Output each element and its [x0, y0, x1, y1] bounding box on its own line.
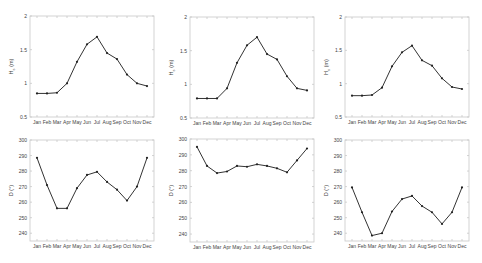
y-axis-label: Hs (m) [168, 59, 176, 75]
x-tick-label: Sep [273, 244, 282, 250]
data-point-marker [136, 186, 138, 188]
x-tick-label: May [387, 243, 397, 249]
y-axis-label: D (°) [323, 185, 329, 197]
data-point-marker [46, 92, 48, 94]
x-tick-label: Jan [348, 243, 356, 249]
x-tick-label: Jan [33, 119, 41, 125]
x-tick-label: Dec [303, 120, 312, 126]
x-tick-label: Mar [213, 244, 222, 250]
data-point-marker [56, 207, 58, 209]
data-point-marker [106, 181, 108, 183]
plot-area-frame [190, 17, 314, 118]
data-point-marker [371, 94, 373, 96]
data-point-marker [461, 88, 463, 90]
data-point-marker [136, 82, 138, 84]
data-point-marker [76, 187, 78, 189]
plot-area-frame [345, 17, 469, 117]
x-tick-label: Apr [63, 119, 71, 125]
data-point-marker [146, 85, 148, 87]
data-point-marker [146, 157, 148, 159]
x-tick-label: Aug [263, 244, 272, 250]
data-point-marker [126, 73, 128, 75]
y-tick-label: 0.5 [335, 114, 342, 120]
chart-direction-bottom-middle: 240250260270280290300JanFebMarAprMayJunJ… [160, 133, 320, 256]
data-point-marker [401, 51, 403, 53]
y-tick-label: 2 [24, 13, 27, 19]
chart-svg: 240250260270280290300JanFebMarAprMayJunJ… [0, 134, 160, 255]
data-point-marker [441, 223, 443, 225]
data-point-marker [306, 89, 308, 91]
x-tick-label: Apr [223, 120, 231, 126]
x-tick-label: Jul [94, 243, 100, 249]
x-tick-label: Feb [43, 119, 52, 125]
y-tick-label: 2 [339, 14, 342, 20]
x-tick-label: Feb [203, 120, 212, 126]
chart-direction-bottom-left: 240250260270280290300JanFebMarAprMayJunJ… [0, 134, 160, 255]
x-tick-label: Nov [133, 119, 142, 125]
data-point-marker [276, 167, 278, 169]
data-point-marker [361, 211, 363, 213]
x-tick-label: Mar [53, 119, 62, 125]
data-point-marker [86, 43, 88, 45]
chart-svg: 0.511.52JanFebMarAprMayJunJulAugSepOctNo… [160, 11, 320, 132]
plot-area-frame [30, 16, 154, 117]
x-tick-label: Oct [123, 119, 131, 125]
data-point-marker [381, 87, 383, 89]
x-tick-label: Oct [438, 119, 446, 125]
data-point-marker [246, 44, 248, 46]
data-point-marker [296, 159, 298, 161]
x-tick-label: Jun [83, 243, 91, 249]
x-tick-label: Mar [368, 243, 377, 249]
x-tick-label: Dec [303, 244, 312, 250]
y-axis-label: Hs (m) [8, 58, 16, 74]
x-tick-label: Sep [113, 119, 122, 125]
x-tick-label: May [232, 244, 242, 250]
x-tick-label: Feb [358, 119, 367, 125]
x-tick-label: Sep [113, 243, 122, 249]
x-tick-label: Mar [368, 119, 377, 125]
plot-area-frame [30, 140, 154, 241]
data-point-marker [411, 195, 413, 197]
data-series-line [37, 37, 147, 94]
data-point-marker [236, 62, 238, 64]
x-tick-label: Nov [293, 244, 302, 250]
data-point-marker [451, 211, 453, 213]
x-tick-label: Feb [358, 243, 367, 249]
x-tick-label: Dec [458, 119, 467, 125]
chart-direction-bottom-right: 240250260270280290300JanFebMarAprMayJunJ… [315, 134, 475, 255]
data-point-marker [236, 165, 238, 167]
x-tick-label: Oct [283, 244, 291, 250]
x-tick-label: Jan [193, 120, 201, 126]
x-tick-label: Jan [348, 119, 356, 125]
data-point-marker [46, 184, 48, 186]
chart-svg: 240250260270280290300JanFebMarAprMayJunJ… [160, 133, 320, 256]
x-tick-label: May [232, 120, 242, 126]
x-tick-label: Oct [438, 243, 446, 249]
y-tick-label: 1.5 [20, 47, 27, 53]
y-tick-label: 250 [334, 215, 343, 221]
data-point-marker [36, 92, 38, 94]
data-point-marker [391, 65, 393, 67]
x-tick-label: Nov [293, 120, 302, 126]
x-tick-label: Jul [409, 119, 415, 125]
y-tick-label: 250 [19, 215, 28, 221]
x-tick-label: Apr [223, 244, 231, 250]
data-point-marker [226, 170, 228, 172]
x-tick-label: Mar [213, 120, 222, 126]
x-tick-label: Sep [273, 120, 282, 126]
y-tick-label: 300 [334, 137, 343, 143]
data-point-marker [226, 87, 228, 89]
data-series-line [197, 147, 307, 173]
data-point-marker [461, 186, 463, 188]
y-tick-label: 270 [179, 184, 188, 190]
y-tick-label: 0.5 [20, 114, 27, 120]
data-point-marker [431, 211, 433, 213]
data-point-marker [306, 147, 308, 149]
x-tick-label: Dec [143, 243, 152, 249]
y-tick-label: 1 [339, 81, 342, 87]
data-point-marker [266, 53, 268, 55]
x-tick-label: Jul [254, 120, 260, 126]
chart-hs-top-left: 0.511.52JanFebMarAprMayJunJulAugSepOctNo… [0, 10, 160, 131]
data-point-marker [66, 82, 68, 84]
y-tick-label: 2 [184, 14, 187, 20]
